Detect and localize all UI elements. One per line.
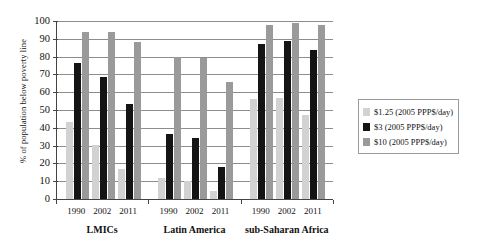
bar-cluster <box>208 21 234 199</box>
x-axis-year-label: 1990 <box>63 206 89 216</box>
x-axis-year-label: 2002 <box>181 206 207 216</box>
x-axis-year-label: 2002 <box>274 206 300 216</box>
bar <box>276 98 283 199</box>
y-axis-tick-label: 0 <box>45 194 50 205</box>
bar <box>318 25 325 199</box>
y-axis-tick-label: 30 <box>40 140 51 151</box>
bar-group <box>241 21 333 199</box>
x-axis-year-label: 2011 <box>207 206 233 216</box>
bar <box>100 77 107 199</box>
bar-cluster <box>274 21 300 199</box>
bar <box>134 42 141 199</box>
bar <box>126 104 133 199</box>
bar-group <box>149 21 241 199</box>
x-axis-year-label: 1990 <box>248 206 274 216</box>
x-axis-group-label: Latin America <box>148 224 240 235</box>
y-axis-tick-label: 80 <box>40 51 51 62</box>
x-axis-group-label: sub-Saharan Africa <box>241 224 333 235</box>
legend-label: $1.25 (2005 PPP$/day) <box>374 107 453 117</box>
x-year-labels: 199020022011199020022011199020022011 <box>56 206 333 216</box>
bar <box>200 58 207 199</box>
y-axis-tick-label: 60 <box>40 87 51 98</box>
y-axis-tick-label: 50 <box>40 105 51 116</box>
x-axis: 199020022011199020022011199020022011 LMI… <box>56 200 333 250</box>
legend-label: $3 (2005 PPP$/day) <box>374 122 442 132</box>
bar-cluster <box>64 21 90 199</box>
legend-item: $1.25 (2005 PPP$/day) <box>363 104 453 119</box>
x-axis-year-label: 2011 <box>115 206 141 216</box>
bar <box>250 99 257 199</box>
bar-cluster <box>156 21 182 199</box>
x-group-years: 199020022011 <box>148 206 240 216</box>
y-axis-tick-label: 10 <box>40 176 51 187</box>
x-group-years: 199020022011 <box>56 206 148 216</box>
legend-swatch <box>363 123 370 131</box>
bar-cluster <box>116 21 142 199</box>
x-axis-group-label: LMICs <box>56 224 148 235</box>
bar-cluster <box>300 21 326 199</box>
x-axis-tick <box>333 200 334 204</box>
x-axis-tick <box>56 200 57 204</box>
bar <box>108 32 115 199</box>
bar <box>284 41 291 199</box>
x-axis-year-label: 1990 <box>155 206 181 216</box>
plot-area: 0102030405060708090100 <box>56 21 333 200</box>
bar <box>310 50 317 199</box>
bar <box>192 138 199 199</box>
bar <box>82 32 89 199</box>
x-axis-year-label: 2002 <box>89 206 115 216</box>
y-axis-tick-label: 70 <box>40 69 51 80</box>
y-axis-tick-label: 100 <box>34 16 50 27</box>
y-axis-title: % of population below poverty line <box>18 6 28 196</box>
bar <box>218 167 225 199</box>
bar <box>292 23 299 199</box>
x-axis-year-label: 2011 <box>300 206 326 216</box>
bar-group <box>57 21 149 199</box>
bar <box>66 122 73 199</box>
legend: $1.25 (2005 PPP$/day)$3 (2005 PPP$/day)$… <box>358 99 459 154</box>
legend-item: $10 (2005 PPP$/day) <box>363 134 453 149</box>
bar <box>258 44 265 199</box>
x-axis-tick <box>148 200 149 204</box>
bar <box>118 169 125 199</box>
bar <box>184 181 191 199</box>
bar <box>158 178 165 199</box>
bar-cluster <box>90 21 116 199</box>
bar-groups <box>57 21 333 199</box>
bar <box>92 145 99 199</box>
poverty-bar-chart: % of population below poverty line 01020… <box>0 0 494 252</box>
y-axis-tick-label: 20 <box>40 158 51 169</box>
y-axis-tick-label: 40 <box>40 123 51 134</box>
y-axis-tick-label: 90 <box>40 34 51 45</box>
x-group-years: 199020022011 <box>241 206 333 216</box>
bar <box>174 57 181 199</box>
bar <box>166 134 173 199</box>
bar <box>226 82 233 199</box>
legend-label: $10 (2005 PPP$/day) <box>374 137 447 147</box>
legend-swatch <box>363 108 370 116</box>
bar <box>210 191 217 199</box>
bar-cluster <box>248 21 274 199</box>
legend-swatch <box>363 138 370 146</box>
bar-cluster <box>182 21 208 199</box>
bar <box>266 25 273 199</box>
legend-item: $3 (2005 PPP$/day) <box>363 119 453 134</box>
bar <box>302 115 309 199</box>
bar <box>74 63 81 199</box>
x-axis-tick <box>241 200 242 204</box>
x-group-labels: LMICsLatin Americasub-Saharan Africa <box>56 224 333 235</box>
